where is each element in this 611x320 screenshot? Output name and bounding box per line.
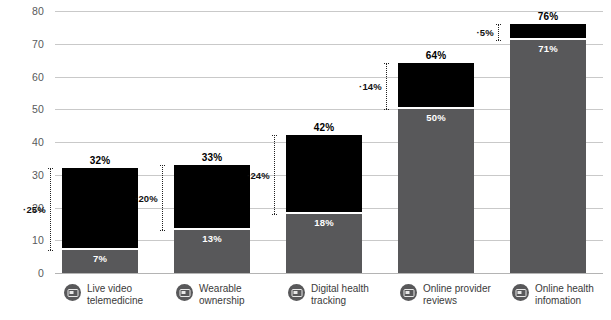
bar-segment-base-label: 18%	[286, 217, 362, 228]
bar-total-label: 33%	[174, 152, 250, 163]
bar-segment-base[interactable]: 71%	[510, 40, 586, 273]
bar-group[interactable]: 13%33%	[174, 165, 250, 273]
bar-group[interactable]: 50%64%	[398, 63, 474, 273]
category-label-4[interactable]: Online provider reviews	[400, 283, 491, 307]
delta-value-label: ·24%	[247, 169, 270, 180]
monitor-glyph	[67, 289, 78, 297]
bar-group[interactable]: 7%32%	[62, 168, 138, 273]
delta-bracket-line	[386, 63, 387, 109]
delta-bracket-line	[274, 135, 275, 214]
bar-total-label: 32%	[62, 155, 138, 166]
monitor-icon	[400, 284, 417, 301]
y-axis-tick-label: 80	[0, 5, 44, 17]
bar-segment-base-label: 7%	[62, 253, 138, 264]
bar-total-label: 76%	[510, 11, 586, 22]
category-label-text: Wearable ownership	[199, 283, 245, 307]
delta-bracket-cap	[384, 109, 389, 110]
category-label-text: Online health infomation	[535, 283, 594, 307]
category-label-5[interactable]: Online health infomation	[512, 283, 594, 307]
bar-segment-base-label: 13%	[174, 233, 250, 244]
monitor-icon	[512, 284, 529, 301]
delta-bracket-cap	[496, 40, 501, 41]
y-axis-tick-label: 40	[0, 136, 44, 148]
monitor-icon	[64, 284, 81, 301]
monitor-glyph	[403, 289, 414, 297]
bar-segment-base[interactable]: 50%	[398, 109, 474, 273]
bar-segment-base-label: 50%	[398, 112, 474, 123]
delta-value-label: ·14%	[359, 81, 382, 92]
monitor-glyph	[291, 289, 302, 297]
monitor-glyph	[179, 289, 190, 297]
delta-bracket-line	[162, 165, 163, 231]
category-label-3[interactable]: Digital health tracking	[288, 283, 369, 307]
bar-segment-base[interactable]: 18%	[286, 214, 362, 273]
delta-bracket-line	[498, 24, 499, 40]
delta-bracket-cap	[160, 165, 165, 166]
delta-bracket-cap	[272, 135, 277, 136]
delta-value-label: ·25%	[23, 204, 46, 215]
gridline	[55, 273, 603, 274]
y-axis-tick-label: 30	[0, 169, 44, 181]
monitor-glyph	[515, 289, 526, 297]
delta-bracket-cap	[48, 168, 53, 169]
delta-bracket-line	[50, 168, 51, 250]
bar-group[interactable]: 18%42%	[286, 135, 362, 273]
bar-segment-increase[interactable]	[510, 24, 586, 40]
chart-container: 01020304050607080 7%32%13%33%18%42%50%64…	[0, 0, 611, 320]
y-axis-tick-label: 10	[0, 234, 44, 246]
y-axis-tick-label: 50	[0, 103, 44, 115]
delta-bracket-cap	[496, 24, 501, 25]
bar-segment-base-label: 71%	[510, 43, 586, 54]
bar-total-label: 64%	[398, 50, 474, 61]
delta-value-label: ·5%	[476, 27, 494, 38]
category-label-text: Digital health tracking	[311, 283, 369, 307]
delta-bracket-cap	[272, 214, 277, 215]
category-label-text: Online provider reviews	[423, 283, 491, 307]
bar-segment-base[interactable]: 7%	[62, 250, 138, 273]
y-axis-tick-label: 60	[0, 71, 44, 83]
monitor-icon	[176, 284, 193, 301]
monitor-icon	[288, 284, 305, 301]
delta-bracket-cap	[384, 63, 389, 64]
delta-value-label: ·20%	[135, 192, 158, 203]
bar-segment-increase[interactable]	[286, 135, 362, 214]
delta-bracket-cap	[48, 250, 53, 251]
bar-segment-increase[interactable]	[398, 63, 474, 109]
bar-segment-increase[interactable]	[62, 168, 138, 250]
category-label-text: Live video telemedicine	[87, 283, 143, 307]
bar-total-label: 42%	[286, 122, 362, 133]
delta-bracket-cap	[160, 230, 165, 231]
bar-segment-increase[interactable]	[174, 165, 250, 231]
category-label-2[interactable]: Wearable ownership	[176, 283, 245, 307]
bar-group[interactable]: 71%76%	[510, 24, 586, 273]
category-label-1[interactable]: Live video telemedicine	[64, 283, 143, 307]
y-axis-tick-label: 70	[0, 38, 44, 50]
bar-segment-base[interactable]: 13%	[174, 230, 250, 273]
y-axis-tick-label: 0	[0, 267, 44, 279]
